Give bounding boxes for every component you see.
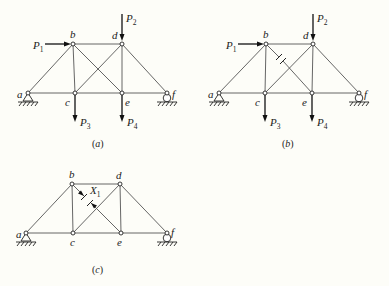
node-label-b: b xyxy=(70,28,76,40)
redundant-label-x1: X1 xyxy=(89,184,101,199)
node-label-d: d xyxy=(116,169,122,181)
node-label-e: e xyxy=(117,236,122,248)
load-p4-arrow xyxy=(310,95,315,122)
joint-a xyxy=(24,231,28,235)
joint-f xyxy=(357,91,361,95)
member-de xyxy=(312,44,313,93)
load-p2-arrow xyxy=(311,14,316,41)
node-label-e: e xyxy=(125,96,130,108)
member-df xyxy=(122,44,167,93)
node-label-d: d xyxy=(303,29,309,41)
member-bc xyxy=(72,184,73,233)
load-label-p4: P4 xyxy=(316,116,328,131)
joint-e xyxy=(310,91,314,95)
node-label-a: a xyxy=(208,88,214,100)
load-label-p2: P2 xyxy=(316,12,328,27)
joint-b xyxy=(264,42,268,46)
member-df xyxy=(313,44,359,93)
load-label-p2: P2 xyxy=(125,12,137,27)
node-label-e: e xyxy=(302,96,307,108)
truss-members xyxy=(219,44,359,93)
panel-c: a b c d e f X1 (c) xyxy=(16,168,177,276)
load-p2-arrow xyxy=(120,14,125,41)
panel-b: a b c d e f P1 P2 P3 P4 (b) xyxy=(208,12,369,150)
node-label-f: f xyxy=(172,88,177,100)
load-p1-arrow xyxy=(238,42,264,47)
member-ab xyxy=(219,44,266,93)
load-label-p4: P4 xyxy=(126,116,138,131)
member-ab xyxy=(26,184,72,233)
joint-b xyxy=(70,182,74,186)
member-bc xyxy=(73,44,75,93)
joint-d xyxy=(118,182,122,186)
panel-caption-c: (c) xyxy=(92,264,103,276)
joint-b xyxy=(71,42,75,46)
node-label-f: f xyxy=(171,226,176,238)
joint-a xyxy=(217,91,221,95)
joint-d xyxy=(120,42,124,46)
joint-f xyxy=(165,91,169,95)
joint-c xyxy=(73,91,77,95)
node-label-c: c xyxy=(70,236,75,248)
load-label-p3: P3 xyxy=(79,116,91,131)
load-p4-arrow xyxy=(120,95,125,122)
node-label-d: d xyxy=(112,29,118,41)
node-label-f: f xyxy=(364,88,369,100)
joint-c xyxy=(263,91,267,95)
load-p1-arrow xyxy=(45,42,71,47)
member-de xyxy=(120,184,121,233)
joint-c xyxy=(71,231,75,235)
joint-f xyxy=(165,231,169,235)
joint-e xyxy=(119,231,123,235)
load-label-p1: P1 xyxy=(225,39,237,54)
node-label-a: a xyxy=(16,228,22,240)
joint-d xyxy=(311,42,315,46)
member-be-part2 xyxy=(283,61,312,93)
node-label-b: b xyxy=(69,168,75,180)
panel-a: a b c d e f P1 P2 P3 P4 (a) xyxy=(17,12,177,150)
member-bc xyxy=(265,44,266,93)
node-label-c: c xyxy=(255,96,260,108)
truss-figure: a b c d e f P1 P2 P3 P4 (a) xyxy=(0,0,389,286)
load-label-p1: P1 xyxy=(32,39,44,54)
load-label-p3: P3 xyxy=(269,116,281,131)
joint-a xyxy=(26,91,30,95)
joint-e xyxy=(120,91,124,95)
node-label-c: c xyxy=(65,96,70,108)
load-p3-arrow xyxy=(263,95,268,122)
member-df xyxy=(120,184,167,233)
panel-caption-a: (a) xyxy=(92,138,104,150)
node-label-b: b xyxy=(263,28,269,40)
load-p3-arrow xyxy=(73,95,78,122)
truss-members xyxy=(28,44,167,93)
panel-caption-b: (b) xyxy=(282,138,294,150)
member-ab xyxy=(28,44,73,93)
member-be-part1 xyxy=(266,44,279,57)
node-label-a: a xyxy=(17,88,23,100)
